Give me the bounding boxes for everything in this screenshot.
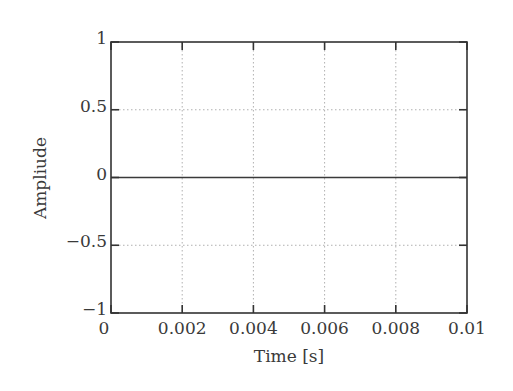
x-axis-ticks: 00.0020.0040.0060.0080.01	[99, 42, 486, 338]
x-tick-label: 0.008	[371, 318, 420, 338]
line-chart: 10.50−0.5−1 00.0020.0040.0060.0080.01 Ti…	[0, 0, 513, 391]
x-tick-label: 0.002	[158, 318, 207, 338]
y-tick-label: −1	[82, 299, 107, 319]
y-tick-label: −0.5	[66, 231, 107, 251]
x-tick-label: 0.006	[300, 318, 349, 338]
x-tick-label: 0	[99, 318, 110, 338]
y-tick-label: 0	[96, 164, 107, 184]
x-axis-label: Time [s]	[254, 346, 324, 366]
y-tick-label: 0.5	[80, 96, 107, 116]
chart-figure: 10.50−0.5−1 00.0020.0040.0060.0080.01 Ti…	[0, 0, 513, 391]
x-tick-label: 0.01	[448, 318, 486, 338]
y-tick-label: 1	[96, 28, 107, 48]
y-axis-label: Ampliude	[30, 137, 50, 220]
x-tick-label: 0.004	[229, 318, 278, 338]
y-axis-ticks: 10.50−0.5−1	[66, 28, 467, 319]
